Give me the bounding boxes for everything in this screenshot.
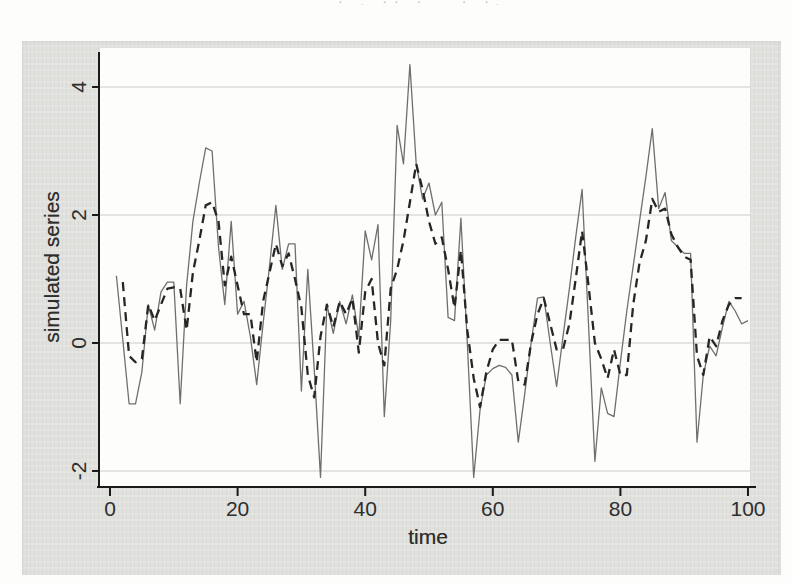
- solid-series: [116, 65, 748, 478]
- y-tick-label: 4: [67, 81, 90, 93]
- x-tick-label: 100: [730, 497, 765, 520]
- x-axis-title: time: [408, 525, 448, 549]
- x-tick-label: 0: [104, 497, 116, 520]
- page: · . ·· · ˙ · ·. · -2024020406080100 simu…: [0, 0, 793, 583]
- x-tick-label: 20: [226, 497, 249, 520]
- x-tick-label: 60: [481, 497, 504, 520]
- x-tick-label: 80: [609, 497, 632, 520]
- y-tick-label: 2: [67, 209, 90, 221]
- y-tick-label: -2: [67, 462, 90, 481]
- y-tick-label: 0: [67, 337, 90, 349]
- x-tick-label: 40: [354, 497, 377, 520]
- chart-canvas: -2024020406080100: [0, 0, 793, 583]
- y-axis-title: simulated series: [40, 191, 64, 343]
